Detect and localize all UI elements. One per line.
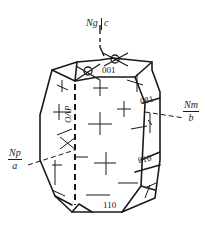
ng-label: Ng [86, 18, 98, 28]
np-a-axis [28, 150, 75, 165]
axis-divider [101, 18, 102, 30]
a-label: a [8, 160, 22, 171]
crystal-drawing [0, 0, 206, 225]
nm-b-axis [145, 112, 184, 118]
nm-b-label: Nm b [183, 100, 199, 123]
face-110-edges [72, 204, 92, 212]
np-label: Np [8, 148, 22, 160]
face-label-001: 001 [102, 66, 116, 75]
c-label: c [104, 18, 108, 28]
nm-label: Nm [183, 100, 199, 112]
np-a-label: Np a [8, 148, 22, 171]
face-label-110: 110 [103, 201, 116, 210]
oap-label: OAP [64, 106, 73, 124]
b-label: b [183, 112, 199, 123]
